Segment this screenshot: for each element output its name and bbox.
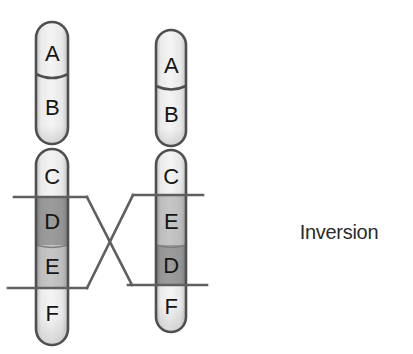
left-label-b: B bbox=[45, 95, 59, 120]
right-label-d: D bbox=[163, 253, 178, 278]
left-label-d: D bbox=[44, 209, 59, 234]
inversion-label: Inversion bbox=[300, 221, 378, 243]
right-label-e: E bbox=[164, 209, 178, 234]
right-label-c: C bbox=[163, 164, 179, 189]
inversion-diagram: A B C D E F A B C E D F Inversion bbox=[0, 0, 413, 354]
left-label-f: F bbox=[46, 301, 59, 326]
left-label-a: A bbox=[45, 41, 60, 66]
left-label-e: E bbox=[45, 254, 59, 279]
inversion-figure: A B C D E F A B C E D F Inversion bbox=[0, 0, 413, 354]
right-label-f: F bbox=[165, 294, 178, 319]
right-label-b: B bbox=[164, 102, 178, 127]
right-label-a: A bbox=[164, 53, 179, 78]
left-label-c: C bbox=[44, 164, 60, 189]
